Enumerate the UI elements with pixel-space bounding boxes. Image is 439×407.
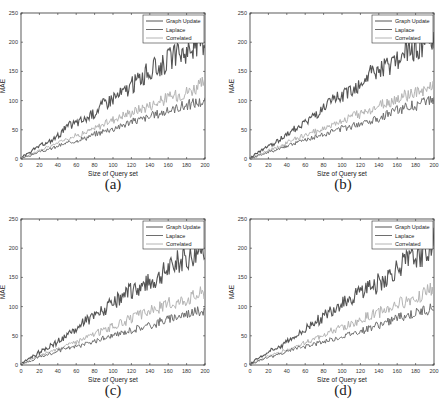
x-tick-label: 140 — [145, 368, 154, 374]
x-tick-label: 80 — [321, 162, 327, 168]
y-tick-label: 50 — [241, 333, 247, 339]
caption-a: (a) — [83, 176, 143, 193]
x-tick-label: 100 — [108, 162, 117, 168]
x-tick-label: 60 — [73, 162, 79, 168]
line-chart: 0204060801001201401601802000501001502002… — [220, 205, 439, 407]
legend-label: Laplace — [395, 27, 414, 33]
legend-label: Graph Update — [166, 224, 201, 230]
x-tick-label: 140 — [145, 162, 154, 168]
x-tick-label: 180 — [411, 368, 420, 374]
legend-label: Correlated — [395, 241, 421, 247]
x-tick-label: 200 — [200, 162, 209, 168]
x-tick-label: 120 — [356, 162, 365, 168]
y-tick-label: 200 — [9, 245, 18, 251]
x-tick-label: 80 — [92, 368, 98, 374]
y-tick-label: 0 — [15, 362, 18, 368]
subplot-b: 0204060801001201401601802000501001502002… — [220, 0, 439, 205]
x-tick-label: 100 — [108, 368, 117, 374]
x-tick-label: 120 — [356, 368, 365, 374]
subplot-d: 0204060801001201401601802000501001502002… — [220, 205, 439, 407]
legend-label: Graph Update — [395, 224, 430, 230]
legend: Graph UpdateLaplaceCorrelated — [143, 221, 204, 249]
y-tick-label: 100 — [238, 304, 247, 310]
x-tick-label: 160 — [164, 368, 173, 374]
legend-label: Laplace — [395, 233, 414, 239]
x-tick-label: 100 — [337, 162, 346, 168]
y-tick-label: 250 — [9, 216, 18, 222]
x-tick-label: 160 — [164, 162, 173, 168]
x-tick-label: 60 — [73, 368, 79, 374]
x-tick-label: 40 — [55, 368, 61, 374]
x-tick-label: 40 — [284, 368, 290, 374]
y-tick-label: 0 — [244, 362, 247, 368]
y-tick-label: 100 — [238, 98, 247, 104]
caption-b: (b) — [313, 176, 373, 193]
x-tick-label: 0 — [19, 162, 22, 168]
legend: Graph UpdateLaplaceCorrelated — [372, 15, 433, 43]
line-chart: 0204060801001201401601802000501001502002… — [0, 0, 220, 205]
x-tick-label: 60 — [302, 368, 308, 374]
y-axis-label: MAE — [228, 284, 235, 299]
x-tick-label: 0 — [248, 162, 251, 168]
legend-label: Correlated — [166, 241, 192, 247]
caption-c: (c) — [83, 382, 143, 399]
y-tick-label: 200 — [238, 39, 247, 45]
x-tick-label: 200 — [429, 162, 438, 168]
x-tick-label: 140 — [374, 162, 383, 168]
y-tick-label: 150 — [238, 68, 247, 74]
x-tick-label: 40 — [55, 162, 61, 168]
y-tick-label: 250 — [238, 10, 247, 16]
x-tick-label: 120 — [127, 162, 136, 168]
x-tick-label: 20 — [36, 162, 42, 168]
y-tick-label: 100 — [9, 304, 18, 310]
caption-d: (d) — [313, 382, 373, 399]
y-tick-label: 200 — [9, 39, 18, 45]
y-tick-label: 0 — [244, 156, 247, 162]
y-tick-label: 50 — [12, 333, 18, 339]
x-tick-label: 120 — [127, 368, 136, 374]
x-tick-label: 180 — [411, 162, 420, 168]
x-tick-label: 20 — [265, 368, 271, 374]
x-tick-label: 140 — [374, 368, 383, 374]
y-tick-label: 150 — [9, 68, 18, 74]
x-tick-label: 100 — [337, 368, 346, 374]
x-tick-label: 160 — [393, 162, 402, 168]
legend-label: Graph Update — [166, 18, 201, 24]
legend-label: Correlated — [395, 35, 421, 41]
y-tick-label: 200 — [238, 245, 247, 251]
x-tick-label: 180 — [182, 368, 191, 374]
x-tick-label: 200 — [429, 368, 438, 374]
subplot-c: 0204060801001201401601802000501001502002… — [0, 205, 220, 407]
x-tick-label: 80 — [92, 162, 98, 168]
x-tick-label: 0 — [248, 368, 251, 374]
y-tick-label: 100 — [9, 98, 18, 104]
x-tick-label: 0 — [19, 368, 22, 374]
legend-label: Graph Update — [395, 18, 430, 24]
y-tick-label: 50 — [12, 127, 18, 133]
x-tick-label: 20 — [36, 368, 42, 374]
line-chart: 0204060801001201401601802000501001502002… — [220, 0, 439, 205]
subplot-a: 0204060801001201401601802000501001502002… — [0, 0, 220, 205]
x-tick-label: 180 — [182, 162, 191, 168]
y-axis-label: MAE — [0, 284, 6, 299]
y-tick-label: 150 — [9, 274, 18, 280]
x-tick-label: 60 — [302, 162, 308, 168]
y-tick-label: 50 — [241, 127, 247, 133]
legend: Graph UpdateLaplaceCorrelated — [143, 15, 204, 43]
x-tick-label: 20 — [265, 162, 271, 168]
line-chart: 0204060801001201401601802000501001502002… — [0, 205, 220, 407]
y-axis-label: MAE — [0, 78, 6, 93]
y-tick-label: 0 — [15, 156, 18, 162]
y-axis-label: MAE — [228, 78, 235, 93]
x-tick-label: 80 — [321, 368, 327, 374]
legend: Graph UpdateLaplaceCorrelated — [372, 221, 433, 249]
legend-label: Laplace — [166, 233, 185, 239]
x-tick-label: 200 — [200, 368, 209, 374]
legend-label: Correlated — [166, 35, 192, 41]
y-tick-label: 250 — [238, 216, 247, 222]
y-tick-label: 150 — [238, 274, 247, 280]
legend-label: Laplace — [166, 27, 185, 33]
x-tick-label: 40 — [284, 162, 290, 168]
x-tick-label: 160 — [393, 368, 402, 374]
y-tick-label: 250 — [9, 10, 18, 16]
